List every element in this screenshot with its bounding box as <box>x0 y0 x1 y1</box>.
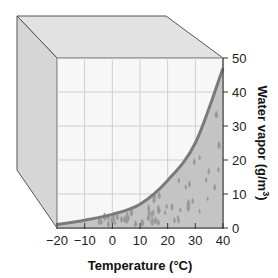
y-axis-title: Water vapor (g/m3) <box>255 85 271 200</box>
svg-text:10: 10 <box>133 233 147 248</box>
water-vapor-chart: −20−10010203040 01020304050 Temperature … <box>0 0 278 278</box>
svg-text:0: 0 <box>109 233 116 248</box>
svg-text:50: 50 <box>232 51 246 66</box>
x-axis-title: Temperature (°C) <box>88 258 193 273</box>
svg-text:30: 30 <box>188 233 202 248</box>
svg-text:40: 40 <box>216 233 230 248</box>
svg-text:20: 20 <box>160 233 174 248</box>
y-axis-ticks: 01020304050 <box>223 51 246 236</box>
svg-text:10: 10 <box>232 187 246 202</box>
svg-text:0: 0 <box>232 221 239 236</box>
svg-text:30: 30 <box>232 119 246 134</box>
svg-text:−10: −10 <box>74 233 96 248</box>
svg-text:40: 40 <box>232 85 246 100</box>
svg-text:−20: −20 <box>46 233 68 248</box>
svg-text:20: 20 <box>232 153 246 168</box>
